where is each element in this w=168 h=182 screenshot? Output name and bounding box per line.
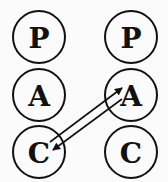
pac-diagram: P A C P A C: [0, 0, 168, 182]
right-adult-label: A: [119, 80, 143, 113]
left-child-state: C: [13, 126, 65, 178]
right-child-state: C: [105, 126, 157, 178]
right-child-label: C: [120, 137, 142, 170]
left-parent-state: P: [13, 11, 65, 63]
left-parent-label: P: [28, 22, 49, 55]
right-parent-state: P: [105, 11, 157, 63]
left-ego-states: P A C: [13, 11, 65, 178]
right-parent-label: P: [120, 22, 141, 55]
left-adult-state: A: [13, 69, 65, 121]
left-adult-label: A: [27, 80, 51, 113]
left-child-label: C: [28, 137, 50, 170]
